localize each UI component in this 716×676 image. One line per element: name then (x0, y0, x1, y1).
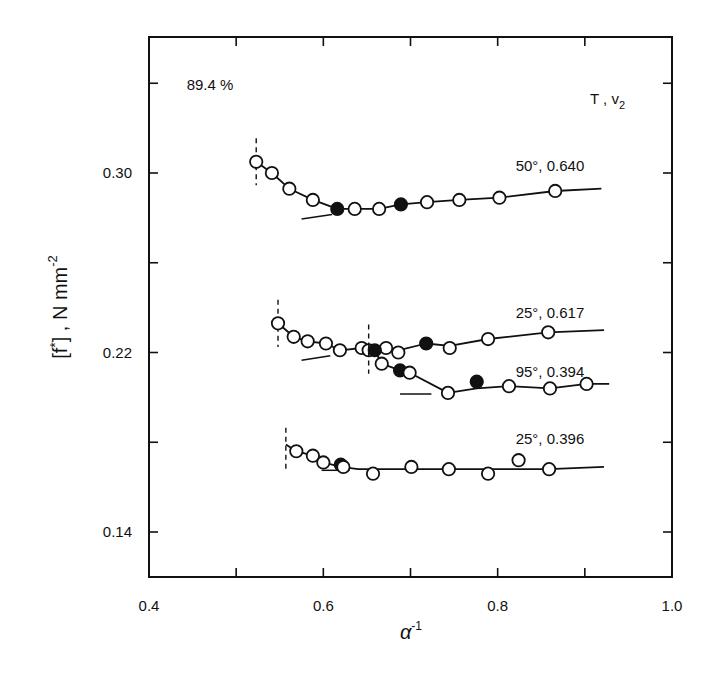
data-point-open (317, 456, 329, 468)
legend-header: T , v2 (590, 90, 625, 111)
x-tick-label: 1.0 (662, 597, 683, 614)
data-point-open (272, 317, 284, 329)
data-point-open (544, 382, 556, 394)
data-point-open (380, 342, 392, 354)
data-point-open (443, 463, 455, 475)
series-25-0-617: 25°, 0.617 (272, 300, 604, 361)
tangent-line (302, 356, 331, 360)
data-point-open (349, 203, 361, 215)
data-point-open (392, 346, 404, 358)
series-label: 95°, 0.394 (516, 363, 585, 380)
data-point-filled (369, 344, 381, 356)
data-point-open (287, 331, 299, 343)
sample-percentage-label: 89.4 % (187, 76, 234, 93)
data-point-open (512, 454, 524, 466)
data-point-open (367, 467, 379, 479)
data-point-open (320, 337, 332, 349)
data-point-open (307, 194, 319, 206)
data-point-open (444, 342, 456, 354)
tangent-line (302, 215, 333, 219)
data-point-filled (331, 203, 343, 215)
data-point-open (403, 366, 415, 378)
plot-frame (149, 37, 672, 577)
data-point-open (301, 335, 313, 347)
data-point-open (290, 445, 302, 457)
y-tick-label: 0.14 (103, 523, 132, 540)
x-tick-label: 0.8 (487, 597, 508, 614)
x-tick-label: 0.4 (139, 597, 160, 614)
data-point-filled (420, 337, 432, 349)
data-point-open (482, 467, 494, 479)
data-point-open (373, 203, 385, 215)
data-point-open (283, 183, 295, 195)
data-point-open (266, 167, 278, 179)
data-point-filled (471, 375, 483, 387)
data-point-open (334, 344, 346, 356)
series-25-0-396: 25°, 0.396 (286, 428, 604, 480)
y-tick-label: 0.30 (103, 164, 132, 181)
y-axis-title: [f*] , N mm-2 (45, 255, 71, 359)
series-50-0-640: 50°, 0.640 (250, 138, 601, 219)
data-point-open (453, 194, 465, 206)
data-point-filled (395, 198, 407, 210)
x-axis-title: α-1 (400, 619, 422, 643)
y-tick-label: 0.22 (103, 344, 132, 361)
data-point-open (482, 333, 494, 345)
data-point-open (543, 463, 555, 475)
chart: 0.40.60.81.00.300.220.14 50°, 0.64025°, … (0, 0, 716, 676)
data-point-open (503, 380, 515, 392)
data-series: 50°, 0.64025°, 0.61795°, 0.39425°, 0.396 (250, 138, 609, 480)
series-label: 25°, 0.396 (516, 430, 585, 447)
data-point-open (405, 461, 417, 473)
series-label: 25°, 0.617 (516, 304, 585, 321)
data-point-open (542, 326, 554, 338)
axis-ticks (149, 37, 672, 577)
data-point-open (376, 358, 388, 370)
data-point-open (337, 461, 349, 473)
data-point-open (549, 185, 561, 197)
axis-tick-labels: 0.40.60.81.00.300.220.14 (103, 164, 683, 614)
data-point-open (442, 387, 454, 399)
annotations: 89.4 % (187, 76, 234, 93)
data-point-open (421, 196, 433, 208)
data-point-open (493, 191, 505, 203)
x-axis-title-sup: -1 (411, 619, 422, 633)
data-point-open (250, 156, 262, 168)
x-tick-label: 0.6 (313, 597, 334, 614)
series-label: 50°, 0.640 (516, 157, 585, 174)
